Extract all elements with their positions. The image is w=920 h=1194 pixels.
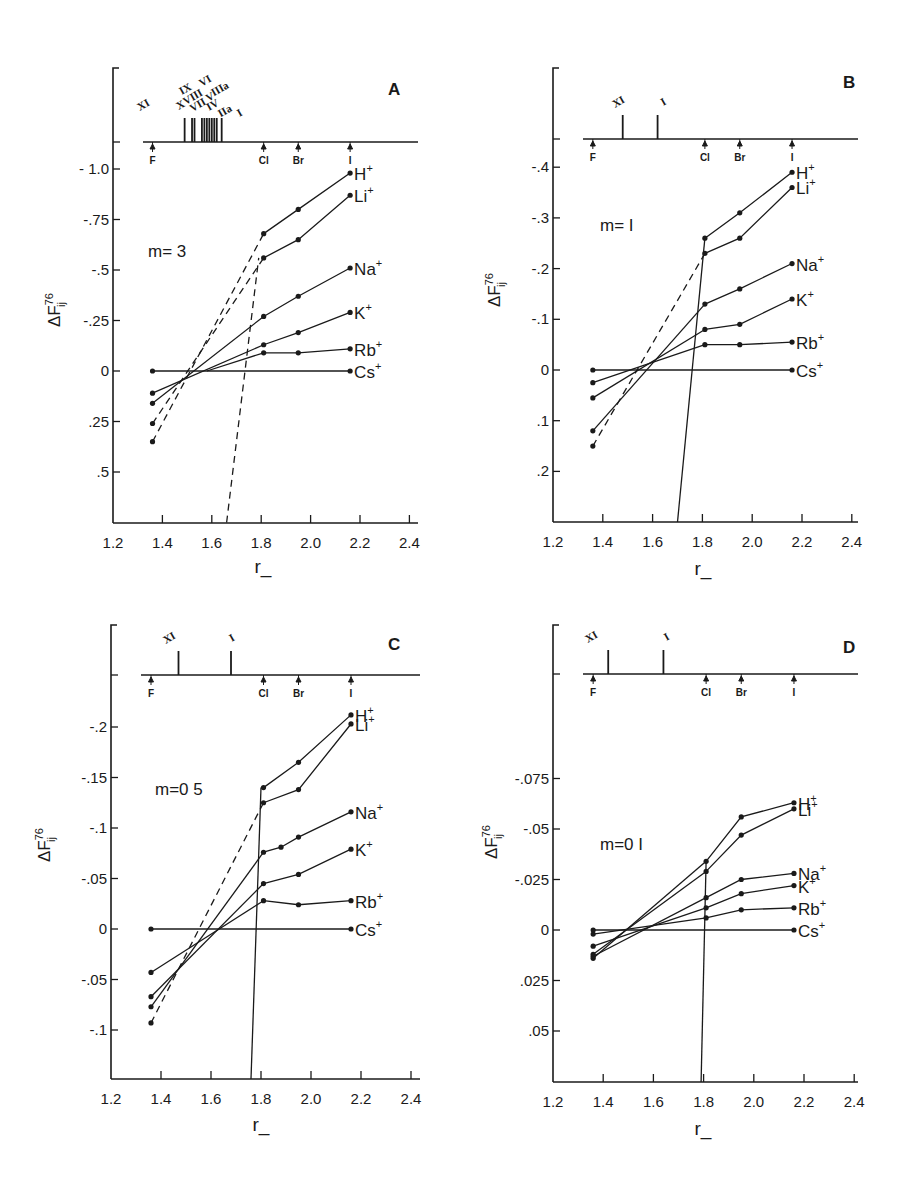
series-line: [706, 809, 794, 872]
y-axis: [553, 625, 559, 1082]
data-point: [261, 881, 266, 886]
y-tick-label: -.3: [531, 209, 549, 226]
halide-label-br: Br: [293, 688, 304, 699]
series-line: [264, 173, 350, 234]
x-tick-label: 1.6: [642, 533, 663, 550]
series-label: Na+: [354, 257, 382, 279]
chart-canvas: 1.21.41.61.82.02.22.4r_- 1.0-.75-.5-.250…: [0, 0, 920, 1194]
x-tick-label: 2.0: [300, 534, 321, 551]
data-point: [739, 907, 744, 912]
x-tick-label: 2.0: [301, 1090, 322, 1107]
data-point: [261, 898, 266, 903]
series-label: Rb+: [354, 338, 382, 360]
series-label: Rb+: [355, 890, 383, 912]
panel-b: 1.21.41.61.82.02.22.4r_-.4-.3-.2-.10.1.2…: [483, 68, 862, 580]
data-point: [702, 236, 707, 241]
data-point: [791, 905, 796, 910]
data-point: [791, 871, 796, 876]
y-tick-label: .25: [88, 413, 109, 430]
halide-label-br: Br: [734, 152, 745, 163]
x-tick-label: 1.8: [251, 1090, 272, 1107]
x-tick-label: 1.2: [103, 534, 124, 551]
data-point: [296, 902, 301, 907]
data-point: [261, 850, 266, 855]
x-tick-label: 2.4: [401, 1090, 422, 1107]
y-tick-label: -.1: [531, 310, 549, 327]
x-tick-label: 1.2: [543, 533, 564, 550]
data-point: [348, 310, 353, 315]
extrapolation-line: [153, 316, 264, 403]
series-label: Cs+: [355, 918, 382, 940]
data-point: [148, 1020, 153, 1025]
series-label: Li+: [798, 798, 818, 820]
data-point: [296, 872, 301, 877]
data-point: [739, 877, 744, 882]
data-point: [348, 926, 353, 931]
y-tick-label: -.75: [83, 211, 109, 228]
data-point: [296, 760, 301, 765]
series-cs: Cs+: [148, 918, 382, 940]
series-na: Na+: [148, 801, 383, 1010]
up-arrow-icon: [591, 674, 596, 684]
data-point: [704, 895, 709, 900]
data-point: [737, 236, 742, 241]
x-tick-label: 2.4: [841, 533, 862, 550]
data-point: [278, 845, 283, 850]
m-annotation: m= I: [600, 216, 634, 235]
data-point: [296, 207, 301, 212]
data-point: [590, 428, 595, 433]
data-point: [789, 367, 794, 372]
halide-label-cl: Cl: [700, 152, 710, 163]
panel-a: 1.21.41.61.82.02.22.4r_- 1.0-.75-.5-.250…: [43, 68, 420, 578]
data-point: [590, 395, 595, 400]
data-point: [737, 210, 742, 215]
data-point: [590, 380, 595, 385]
extrapolation-line: [207, 353, 264, 371]
series-label: Li+: [354, 184, 374, 206]
data-point: [789, 261, 794, 266]
y-axis-label: ΔF76ij: [480, 825, 504, 859]
sequence-label: XI: [583, 628, 600, 645]
sequence-label: I: [227, 631, 237, 644]
data-point: [739, 891, 744, 896]
up-arrow-icon: [261, 675, 266, 685]
series-line: [706, 886, 794, 908]
up-arrow-icon: [150, 142, 155, 152]
transition-line: [678, 238, 705, 522]
series-line: [264, 312, 350, 344]
x-axis-label: r_: [253, 1114, 270, 1136]
halide-label-i: I: [349, 155, 352, 166]
data-point: [737, 322, 742, 327]
data-point: [348, 193, 353, 198]
data-point: [789, 296, 794, 301]
data-point: [296, 834, 301, 839]
data-point: [591, 927, 596, 932]
data-point: [702, 327, 707, 332]
data-point: [702, 251, 707, 256]
series-line: [705, 299, 792, 329]
y-tick-label: .025: [520, 972, 549, 989]
x-tick-label: 1.6: [201, 1090, 222, 1107]
data-point: [261, 785, 266, 790]
x-tick-label: 2.0: [742, 533, 763, 550]
series-li: Li+: [150, 184, 374, 426]
data-point: [591, 954, 596, 959]
halide-label-cl: Cl: [259, 688, 269, 699]
series-line: [706, 873, 794, 897]
up-arrow-icon: [349, 675, 354, 685]
up-arrow-icon: [348, 142, 353, 152]
series-h: H+: [702, 161, 814, 241]
data-point: [348, 346, 353, 351]
m-annotation: m=0 5: [155, 780, 203, 799]
sequence-label: I: [235, 106, 245, 119]
y-tick-label: .2: [536, 462, 549, 479]
series-line: [705, 342, 792, 345]
x-tick-label: 2.4: [844, 1093, 865, 1110]
data-point: [348, 170, 353, 175]
y-axis-label: ΔF76ij: [33, 828, 57, 862]
extrapolation-line: [151, 884, 264, 997]
series-label: Cs+: [798, 919, 825, 941]
up-arrow-icon: [791, 674, 796, 684]
data-point: [791, 800, 796, 805]
data-point: [739, 832, 744, 837]
